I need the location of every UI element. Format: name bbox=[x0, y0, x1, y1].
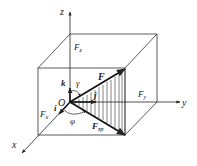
gamma-arc bbox=[70, 91, 80, 96]
origin-label: O bbox=[58, 97, 65, 108]
unit-vector-k-label: k bbox=[61, 78, 66, 88]
box-edge-bottom-right bbox=[125, 102, 157, 135]
angle-phi-label: φ bbox=[70, 116, 75, 126]
force-Fy-label: Fy bbox=[137, 89, 147, 100]
angle-gamma-label: γ bbox=[76, 78, 80, 88]
z-axis-label: z bbox=[59, 6, 64, 17]
force-Fxy-label: Fxy bbox=[91, 121, 104, 132]
box-edge-top-left bbox=[38, 34, 70, 68]
force-Fx-label: Fx bbox=[39, 109, 49, 120]
force-Fz-label: Fz bbox=[73, 42, 83, 53]
force-decomposition-diagram: z y x O k j i F Fz Fy Fx Fxy γ φ bbox=[0, 0, 197, 166]
unit-vector-j-label: j bbox=[92, 90, 97, 100]
y-axis-label: y bbox=[181, 97, 187, 108]
unit-vector-i-label: i bbox=[54, 103, 57, 113]
x-axis-label: x bbox=[11, 139, 17, 150]
box-edge-top-right bbox=[125, 34, 157, 68]
force-F-label: F bbox=[97, 71, 105, 82]
